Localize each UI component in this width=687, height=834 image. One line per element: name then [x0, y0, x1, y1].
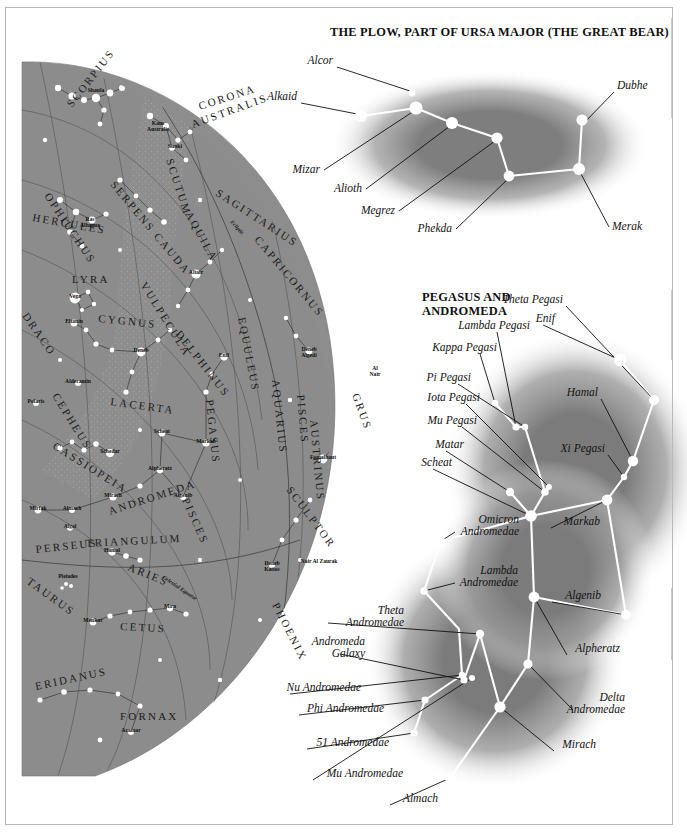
pegasus-title-line1: PEGASUS AND	[422, 290, 511, 304]
star-label: ThetaAndromedae	[345, 604, 405, 628]
star-label: Pi Pegasi	[426, 371, 471, 384]
star-marker	[523, 659, 532, 668]
star-chart-page: SCORPIUSOPHIUCHUSSERPENS CAUDASCUTUMCORO…	[0, 0, 687, 834]
star-marker	[628, 456, 638, 466]
star-label: Xi Pegasi	[560, 442, 605, 455]
star-label: Matar	[434, 438, 464, 450]
pegasus-andromeda-diagram: PEGASUS AND ANDROMEDA Theta PegasiEnifHa…	[0, 0, 687, 834]
star-label: Kappa Pegasi	[431, 341, 497, 354]
star-label: Hamal	[566, 386, 598, 398]
star-marker	[410, 729, 417, 736]
star-label: Mu Andromedae	[326, 767, 403, 779]
star-marker	[506, 488, 514, 496]
star-label: 51 Andromedae	[316, 736, 389, 748]
star-label: Theta Pegasi	[503, 293, 563, 306]
star-marker	[649, 395, 659, 405]
star-marker	[469, 675, 475, 681]
star-marker	[621, 474, 627, 480]
star-label: Nu Andromedae	[286, 681, 361, 693]
star-marker	[529, 592, 540, 603]
star-marker	[621, 610, 631, 620]
star-label: Alpheratz	[574, 642, 620, 655]
star-marker	[512, 423, 519, 430]
star-label: Markab	[563, 515, 601, 527]
star-label: Lambda Pegasi	[457, 319, 530, 332]
star-label: Scheat	[421, 456, 452, 468]
star-marker	[494, 701, 505, 712]
star-marker	[459, 672, 465, 678]
star-marker	[614, 354, 626, 366]
star-marker	[541, 488, 549, 496]
star-label: AndromedaGalaxy	[311, 635, 366, 660]
star-marker	[445, 773, 455, 783]
star-label: Phi Andromedae	[306, 702, 384, 714]
star-label: Algenib	[564, 589, 601, 602]
star-label: Enif	[535, 312, 557, 325]
star-label: Mirach	[561, 738, 596, 750]
star-marker	[420, 587, 428, 595]
star-marker	[421, 696, 428, 703]
pegasus-title-line2: ANDROMEDA	[422, 304, 507, 318]
star-marker	[525, 510, 537, 522]
star-label: Iota Pegasi	[426, 391, 480, 404]
star-marker	[602, 495, 613, 506]
star-marker	[492, 400, 498, 406]
star-marker	[476, 630, 484, 638]
star-marker	[522, 424, 528, 430]
star-marker	[437, 537, 446, 546]
star-label: Mu Pegasi	[426, 414, 477, 427]
star-label: Almach	[402, 792, 438, 804]
